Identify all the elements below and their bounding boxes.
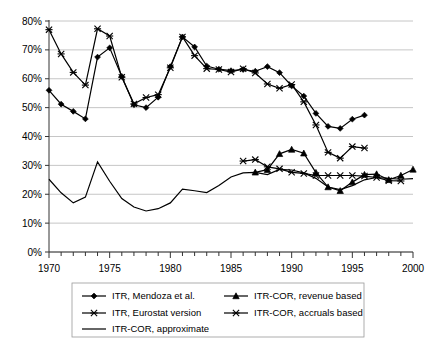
x-tick-label-1990: 1990 [281,263,304,274]
y-tick-label-70: 70% [22,44,42,55]
legend-label-1: ITR-COR, revenue based [254,290,362,301]
x-tick-label-1970: 1970 [38,263,61,274]
y-tick-label-10: 10% [22,218,42,229]
legend-label-2: ITR, Eurostat version [112,307,201,318]
y-tick-label-80: 80% [22,16,42,27]
x-tick-label-1975: 1975 [99,263,122,274]
legend-label-0: ITR, Mendoza et al. [112,290,195,301]
y-tick-label-60: 60% [22,73,42,84]
y-tick-label-30: 30% [22,160,42,171]
y-tick-label-50: 50% [22,102,42,113]
x-tick-label-2000: 2000 [402,263,425,274]
x-tick-label-1985: 1985 [220,263,243,274]
y-tick-label-20: 20% [22,189,42,200]
y-tick-label-0: 0% [28,247,43,258]
tax-rate-line-chart: 0%10%20%30%40%50%60%70%80% 1970197519801… [0,0,426,346]
legend-label-3: ITR-COR, accruals based [254,307,363,318]
chart-container: 0%10%20%30%40%50%60%70%80% 1970197519801… [0,0,426,346]
x-tick-label-1980: 1980 [159,263,182,274]
chart-legend: ITR, Mendoza et al.ITR-COR, revenue base… [72,283,364,337]
x-tick-label-1995: 1995 [341,263,364,274]
legend-label-4: ITR-COR, approximate [112,323,209,334]
y-tick-label-40: 40% [22,131,42,142]
